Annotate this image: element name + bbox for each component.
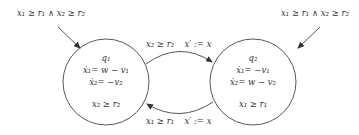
transition-q2-q1-reset: x′ := x — [185, 117, 212, 126]
initial-guard-q2: x₁ ≥ r₁ ∧ x₂ ≥ r₂ — [281, 9, 349, 18]
transition-arrow-q1-to-q2 — [146, 51, 212, 64]
transition-q1-q2-guard: x₂ ≥ r₂ — [146, 40, 174, 49]
state-q2-flow-x2: ẋ₂= w − v₂ — [230, 78, 276, 87]
initial-arrow-q2 — [298, 27, 320, 48]
transition-q2-q1-guard: x₁ ≥ r₁ — [146, 117, 174, 126]
initial-arrow-q1 — [58, 27, 80, 48]
state-q2-invariant: x₁ ≥ r₁ — [239, 100, 267, 109]
diagram-graphics — [0, 0, 359, 135]
transition-q1-q2-reset: x′ := x — [185, 40, 212, 49]
state-q2-flow-x1: ẋ₁= −v₁ — [236, 66, 269, 75]
state-q1-name: q₁ — [102, 54, 111, 63]
transition-arrow-q2-to-q1 — [147, 102, 213, 114]
state-q1-flow-x1: ẋ₁= w − v₁ — [83, 66, 129, 75]
state-q1-flow-x2: ẋ₂= −v₂ — [89, 78, 122, 87]
state-q2-name: q₂ — [249, 54, 258, 63]
hybrid-automaton-diagram: x₁ ≥ r₁ ∧ x₂ ≥ r₂ x₁ ≥ r₁ ∧ x₂ ≥ r₂ x₂ ≥… — [0, 0, 359, 135]
state-q1-invariant: x₂ ≥ r₂ — [92, 100, 120, 109]
initial-guard-q1: x₁ ≥ r₁ ∧ x₂ ≥ r₂ — [17, 9, 85, 18]
